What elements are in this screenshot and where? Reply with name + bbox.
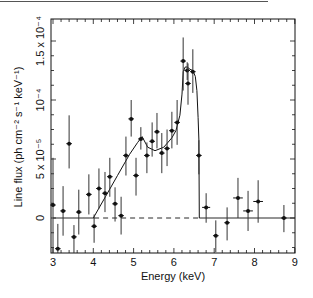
data-marker	[191, 70, 195, 74]
data-marker	[160, 151, 164, 155]
data-marker	[150, 139, 154, 143]
data-marker	[124, 153, 128, 157]
data-marker	[61, 209, 65, 213]
data-point	[190, 49, 196, 93]
data-point	[253, 180, 263, 222]
data-point	[55, 224, 61, 253]
data-point	[233, 178, 243, 218]
data-marker	[165, 146, 169, 150]
x-tick-label: 4	[90, 256, 96, 268]
data-marker	[77, 210, 81, 214]
y-tick-labels: 05 x 10⁻⁵10⁻⁴1.5 x 10⁻⁴	[34, 16, 46, 221]
data-point	[164, 130, 170, 167]
y-tick-label: 0	[34, 215, 46, 221]
data-marker	[51, 203, 55, 207]
data-point	[123, 137, 129, 176]
x-tick-label: 5	[131, 256, 137, 268]
data-point	[112, 187, 118, 221]
data-point	[107, 158, 113, 197]
data-point	[86, 174, 92, 214]
data-marker	[155, 130, 159, 134]
data-marker	[282, 216, 286, 220]
data-marker	[108, 175, 112, 179]
data-marker	[134, 174, 138, 178]
x-axis-label: Energy (keV)	[141, 270, 205, 282]
x-tick-label: 7	[211, 256, 217, 268]
data-marker	[197, 153, 201, 157]
data-marker	[214, 234, 218, 238]
data-marker	[103, 191, 107, 195]
data-point	[128, 100, 134, 137]
data-marker	[246, 209, 250, 213]
y-tick-label: 5 x 10⁻⁵	[34, 139, 46, 180]
data-points	[50, 37, 287, 253]
data-marker	[186, 81, 190, 85]
data-point	[96, 168, 102, 208]
data-point	[144, 142, 150, 173]
data-point	[174, 100, 180, 145]
data-point	[91, 214, 97, 242]
y-tick-label: 1.5 x 10⁻⁴	[34, 16, 46, 66]
data-marker	[119, 214, 123, 218]
data-point	[184, 62, 190, 80]
data-point	[281, 205, 287, 232]
x-tick-label: 6	[171, 256, 177, 268]
data-marker	[56, 247, 60, 251]
data-marker	[67, 142, 71, 146]
data-point	[224, 207, 230, 240]
data-marker	[236, 196, 240, 200]
data-point	[118, 197, 124, 235]
data-marker	[72, 235, 76, 239]
y-tick-label: 10⁻⁴	[34, 88, 46, 111]
data-point	[60, 186, 66, 236]
data-marker	[181, 59, 185, 63]
data-marker	[113, 202, 117, 206]
data-point	[159, 133, 165, 173]
data-marker	[87, 192, 91, 196]
data-point	[66, 115, 72, 168]
data-point	[243, 191, 253, 231]
data-point	[133, 158, 139, 196]
x-tick-label: 3	[50, 256, 56, 268]
data-marker	[185, 69, 189, 73]
data-point	[213, 220, 219, 252]
data-marker	[92, 224, 96, 228]
data-point	[154, 113, 160, 148]
data-marker	[145, 153, 149, 157]
data-marker	[225, 221, 229, 225]
data-point	[169, 112, 175, 149]
data-point	[76, 190, 82, 235]
data-point	[71, 225, 77, 253]
data-point	[196, 140, 202, 174]
data-marker	[129, 117, 133, 121]
data-point	[102, 172, 108, 212]
data-marker	[204, 205, 208, 209]
data-marker	[139, 137, 143, 141]
x-tick-label: 9	[292, 256, 298, 268]
data-marker	[175, 120, 179, 124]
data-point	[149, 122, 155, 156]
line-flux-chart: 3456789 05 x 10⁻⁵10⁻⁴1.5 x 10⁻⁴ Energy (…	[0, 0, 313, 298]
y-axis-label: Line flux (ph cm⁻² s⁻¹ keV⁻¹)	[12, 67, 24, 208]
x-tick-label: 8	[251, 256, 257, 268]
data-marker	[256, 199, 260, 203]
data-marker	[170, 129, 174, 133]
x-tick-labels: 3456789	[50, 256, 298, 268]
data-marker	[97, 187, 101, 191]
data-point	[180, 37, 186, 90]
